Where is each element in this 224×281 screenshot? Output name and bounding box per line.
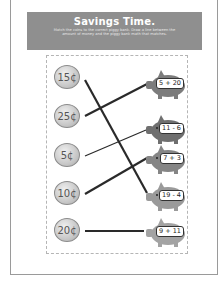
coin-20[interactable]: 20¢ xyxy=(54,218,80,242)
piggy-label: 7 + 3 xyxy=(160,153,184,164)
match-line-25-to-5-20 xyxy=(85,84,147,116)
coin-label: 15¢ xyxy=(57,72,76,83)
piggy-label: 19 - 4 xyxy=(159,190,184,201)
coin-15[interactable]: 15¢ xyxy=(54,65,80,89)
coin-label: 25¢ xyxy=(57,111,76,122)
piggy-bank-5-plus-20[interactable]: 5 + 20 xyxy=(144,69,186,99)
coin-label: 10¢ xyxy=(57,188,76,199)
coin-label: 20¢ xyxy=(57,225,76,236)
piggy-bank-19-minus-4[interactable]: 19 - 4 xyxy=(144,181,186,211)
piggy-bank-7-plus-3[interactable]: 7 + 3 xyxy=(144,144,186,174)
coin-label: 5¢ xyxy=(61,150,74,161)
piggy-label: 11 - 6 xyxy=(159,123,184,134)
coin-25[interactable]: 25¢ xyxy=(54,104,80,128)
coin-5[interactable]: 5¢ xyxy=(54,143,80,167)
piggy-label: 9 + 11 xyxy=(156,226,184,237)
coin-10[interactable]: 10¢ xyxy=(54,181,80,205)
piggy-label: 5 + 20 xyxy=(156,78,184,89)
piggy-bank-11-minus-6[interactable]: 11 - 6 xyxy=(144,114,186,144)
match-lines xyxy=(0,0,224,281)
piggy-bank-9-plus-11[interactable]: 9 + 11 xyxy=(144,217,186,247)
